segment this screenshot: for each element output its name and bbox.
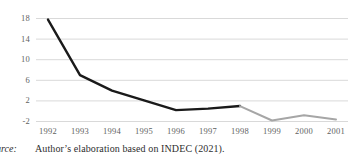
- x-tick-label: 2001: [319, 126, 353, 136]
- x-tick-label: 1993: [63, 126, 97, 136]
- series-line-observed-black: [48, 20, 240, 111]
- x-tick-label: 1998: [223, 126, 257, 136]
- series-line-observed-grey: [240, 106, 336, 120]
- x-tick-label: 2000: [287, 126, 321, 136]
- y-tick-label: 14: [8, 34, 30, 44]
- caption-prefix-label: Source:: [0, 143, 17, 154]
- y-tick-label: -2: [8, 116, 30, 126]
- chart-plot-area: [0, 0, 357, 138]
- x-tick-label: 1994: [95, 126, 129, 136]
- figure-caption: Source: Author’s elaboration based on IN…: [0, 140, 357, 159]
- y-tick-label: 10: [8, 54, 30, 64]
- x-tick-label: 1996: [159, 126, 193, 136]
- figure-container: 18141062-2 19921993199419951996199719981…: [0, 0, 357, 159]
- x-tick-label: 1992: [31, 126, 65, 136]
- series-lines-group: [48, 20, 336, 121]
- y-tick-label: 18: [8, 13, 30, 23]
- y-tick-label: 6: [8, 75, 30, 85]
- x-tick-label: 1995: [127, 126, 161, 136]
- line-chart: 18141062-2 19921993199419951996199719981…: [0, 0, 357, 138]
- x-tick-label: 1999: [255, 126, 289, 136]
- x-tick-label: 1997: [191, 126, 225, 136]
- y-tick-label: 2: [8, 95, 30, 105]
- gridlines-group: [36, 19, 348, 122]
- caption-source-text: Author’s elaboration based on INDEC (202…: [35, 143, 225, 154]
